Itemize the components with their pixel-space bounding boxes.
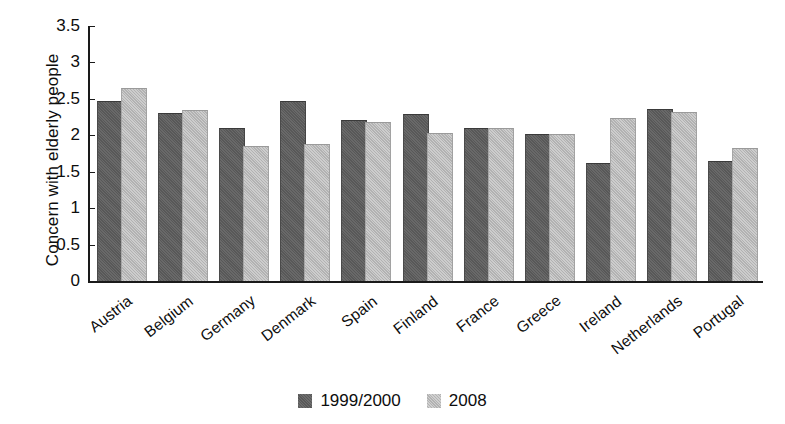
x-axis-category-label: Portugal: [690, 292, 747, 342]
legend-item: 2008: [427, 391, 487, 411]
x-axis-category-label: Spain: [338, 292, 381, 331]
legend-swatch: [298, 394, 312, 408]
x-axis-category-labels: AustriaBelgiumGermanyDenmarkSpainFinland…: [0, 0, 785, 424]
legend-swatch: [427, 394, 441, 408]
legend-item: 1999/2000: [298, 391, 400, 411]
x-axis-category-label: Austria: [86, 292, 136, 336]
legend-label: 2008: [449, 391, 487, 411]
x-axis-category-label: Germany: [197, 292, 259, 346]
x-axis-category-label: Ireland: [576, 292, 625, 336]
x-axis-category-label: Denmark: [258, 292, 319, 345]
x-axis-category-label: Belgium: [141, 292, 197, 341]
legend-label: 1999/2000: [320, 391, 400, 411]
x-axis-category-label: Finland: [390, 292, 442, 338]
bar-chart: Concern with elderly people 3.532.521.51…: [0, 0, 785, 424]
x-axis-category-label: France: [453, 292, 503, 336]
x-axis-category-label: Greece: [513, 292, 565, 338]
chart-legend: 1999/20002008: [0, 391, 785, 411]
